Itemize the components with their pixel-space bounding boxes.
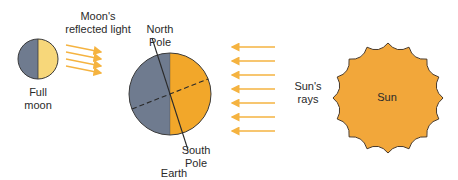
label-north-pole: North Pole [135, 23, 185, 49]
sun-rays-arrows [232, 47, 275, 131]
full-moon [18, 39, 58, 79]
label-moon-reflected-light: Moon's reflected light [58, 10, 138, 36]
moon-reflected-light-arrows [66, 45, 101, 73]
earth [129, 38, 211, 150]
label-full-moon: Full moon [13, 86, 63, 112]
label-suns-rays: Sun's rays [283, 80, 333, 106]
label-earth: Earth [149, 167, 199, 180]
label-sun: Sun [362, 91, 412, 104]
